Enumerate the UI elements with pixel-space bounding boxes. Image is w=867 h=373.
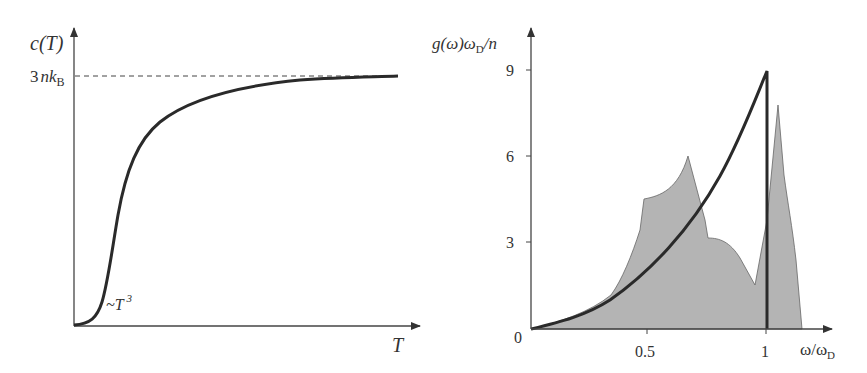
y-tick-label-9: 9 xyxy=(506,62,514,79)
x-tick-label-1: 1 xyxy=(761,343,769,360)
origin-label: 0 xyxy=(514,329,522,346)
figure: c(T) 3nkB T ~T3 9 6 3 0 0.5 1 xyxy=(0,0,867,373)
y-axis-label: c(T) xyxy=(30,32,64,55)
x-tick-label-0.5: 0.5 xyxy=(635,343,655,360)
heat-capacity-chart: c(T) 3nkB T ~T3 xyxy=(30,28,420,356)
x-axis-label: ω/ωD xyxy=(800,340,835,361)
x-axis-label: T xyxy=(392,334,405,356)
phonon-dos-chart: 9 6 3 0 0.5 1 g(ω)ωD/n ω/ωD xyxy=(432,28,835,361)
t-cubed-annotation: ~T3 xyxy=(106,292,133,313)
y-tick-label-6: 6 xyxy=(506,148,514,165)
real-dos-area xyxy=(531,105,802,329)
y-tick-label-3: 3 xyxy=(506,234,514,251)
asymptote-label: 3nkB xyxy=(30,67,65,89)
y-axis-label: g(ω)ωD/n xyxy=(432,34,497,55)
heat-capacity-curve xyxy=(74,76,398,325)
